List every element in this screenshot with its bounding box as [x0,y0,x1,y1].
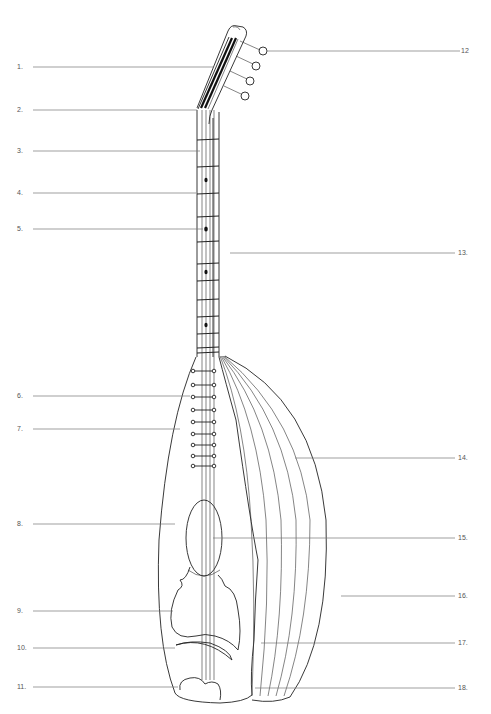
leader-lines-right [213,51,460,688]
label-14: 14. [458,454,468,462]
label-16: 16. [458,592,468,600]
label-17: 17. [458,639,468,647]
label-5: 5. [17,225,23,233]
label-1: 1. [17,63,23,71]
label-6: 6. [17,392,23,400]
label-2: 2. [17,106,23,114]
label-10: 10. [17,644,27,652]
label-15: 15. [458,534,468,542]
body [158,356,326,703]
label-18: 18. [458,684,468,692]
label-12: 12 [461,47,469,55]
label-11: 11. [17,683,26,691]
soundboard-frets [191,369,216,468]
leader-lines-left [33,67,213,687]
lute-diagram [0,0,491,714]
label-3: 3. [17,147,23,155]
frets [197,139,219,353]
bridge-decoration [171,567,240,700]
neck [197,110,219,680]
label-8: 8. [17,520,23,528]
label-7: 7. [17,425,23,433]
label-9: 9. [17,607,23,615]
label-13: 13. [458,249,468,257]
label-4: 4. [17,189,23,197]
pegbox [197,26,247,124]
